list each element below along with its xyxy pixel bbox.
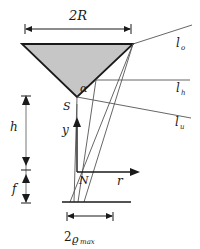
dimension-spot-arrow-right (106, 213, 113, 219)
axis-r-arrowhead (130, 168, 140, 176)
label-ray-lu-base: l (175, 115, 179, 129)
label-apex-angle: α (80, 82, 88, 95)
label-focal-f: f (11, 182, 19, 196)
label-ray-lo-base: l (176, 36, 180, 50)
label-ray-lh-base: l (176, 81, 180, 95)
dimension-f-arrow-bottom (22, 194, 30, 203)
label-axis-r: r (117, 174, 124, 188)
dimension-2R (25, 24, 131, 34)
dimension-spot-arrow-left (67, 213, 74, 219)
label-ray-lu: l u (175, 115, 185, 131)
label-spot-prefix: 2 (64, 230, 72, 244)
dimension-h-f (21, 95, 31, 203)
label-ray-lo: l o (176, 36, 185, 52)
label-ray-lh: l h (176, 81, 186, 97)
cone-ray-diagram-figure: 2R α S N h f y r l o l h l u 2 ϱ max (0, 0, 200, 249)
cone-cross-section (22, 44, 133, 97)
label-height-h: h (10, 120, 18, 134)
axis-y (73, 104, 81, 172)
dimension-spot (67, 212, 113, 221)
axis-y-arrowhead (73, 117, 81, 127)
diagram-canvas: 2R α S N h f y r l o l h l u 2 ϱ max (0, 0, 200, 249)
dimension-f-arrow-top (22, 174, 30, 183)
label-ray-lo-sub: o (181, 44, 185, 52)
ray-lo (133, 25, 192, 44)
ray-lu (77, 97, 191, 118)
dimension-h-arrow-bottom (22, 157, 30, 166)
label-apex-point-S: S (63, 100, 71, 113)
label-ray-lh-sub: h (181, 89, 186, 97)
label-spot-sub: max (80, 238, 95, 246)
label-ray-lu-sub: u (180, 123, 185, 131)
label-spot-symbol: ϱ (72, 233, 79, 246)
label-diameter-2R: 2R (68, 8, 87, 23)
dimension-2R-arrow-left (25, 26, 32, 32)
label-spot-diameter: 2 ϱ max (64, 230, 95, 246)
label-axis-y: y (61, 123, 69, 137)
dimension-2R-arrow-right (124, 26, 131, 32)
label-origin-point-N: N (78, 174, 89, 187)
